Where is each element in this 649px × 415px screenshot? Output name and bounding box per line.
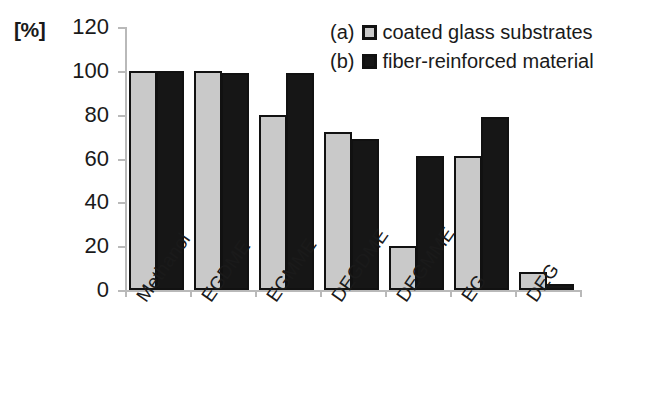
legend-label: fiber-reinforced material	[382, 50, 593, 73]
y-tick-label: 120	[72, 16, 109, 38]
legend-tag: (b)	[330, 50, 354, 73]
y-tick-label: 60	[85, 147, 109, 169]
y-tick-label: 80	[85, 103, 109, 125]
x-axis-labels: MethanolEGDMEEGMMEDEGDMEDEGMMEEGDEG	[125, 294, 580, 414]
y-tick: 60	[118, 159, 125, 161]
legend-label: coated glass substrates	[382, 21, 592, 44]
chart-legend: (a)coated glass substrates(b)fiber-reinf…	[330, 18, 640, 76]
legend-swatch-icon	[362, 25, 377, 40]
bar-chart: [%] 120100806040200 MethanolEGDMEEGMMEDE…	[0, 0, 649, 415]
y-tick-label: 100	[72, 59, 109, 81]
bar-eg-series-b	[481, 117, 509, 290]
y-tick: 40	[118, 202, 125, 204]
x-tick	[580, 290, 582, 297]
y-tick-label: 0	[97, 279, 109, 301]
y-tick: 80	[118, 115, 125, 117]
legend-row-a: (a)coated glass substrates	[330, 18, 640, 47]
legend-swatch-icon	[362, 54, 377, 69]
legend-row-b: (b)fiber-reinforced material	[330, 47, 640, 76]
y-tick-label: 40	[85, 191, 109, 213]
bar-methanol-series-a	[129, 71, 157, 290]
y-tick: 100	[118, 71, 125, 73]
y-tick: 20	[118, 246, 125, 248]
y-tick: 0	[118, 290, 125, 292]
y-tick-label: 20	[85, 235, 109, 257]
legend-tag: (a)	[330, 21, 354, 44]
bar-eg-series-a	[454, 156, 482, 290]
y-tick: 120	[118, 27, 125, 29]
bar-egdme-series-a	[194, 71, 222, 290]
y-axis-unit-label: [%]	[14, 18, 45, 42]
y-axis-line	[125, 27, 127, 290]
